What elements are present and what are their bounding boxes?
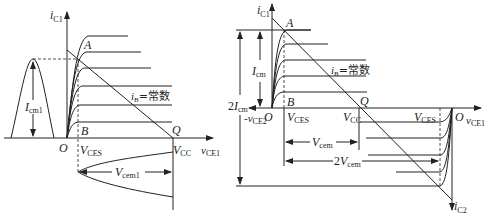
right-point-q: Q [360,94,369,108]
right-origin: O [264,110,273,124]
right-x-axis-label: vCE1 [466,114,485,128]
lower-curve-1 [360,108,452,122]
left-vcem1-label: Vcem1 [115,165,140,180]
left-x-axis-label: vCE1 [201,144,220,158]
left-y-axis-label: iC1 [50,8,63,24]
left-vcc-label: VCC [173,143,191,158]
right-ib-constant-label: iB=常数 [331,64,370,78]
right-icm-label: Icm [251,64,267,79]
right-vces2-label: VCES [414,110,436,125]
right-vces-label: VCES [287,110,309,125]
left-point-b: B [81,124,89,138]
left-icm1-label: Icm1 [24,100,43,115]
right-y-axis-label: iC1 [257,3,270,19]
right-2vcem-label: 2Vcem [334,154,361,169]
right-2icm-label: 2Icm [228,99,249,114]
right-load-line [272,18,452,200]
right-vcem-label: Vcem [312,135,333,150]
left-point-a: A [83,38,92,52]
left-origin: O [59,141,68,155]
left-characteristic-curves [67,36,172,138]
right-point-b: B [287,95,295,109]
transistor-output-characteristics-diagram: iC1 vCE1 A B Q O VCES VCC iB=常数 Icm1 Vce… [0,0,492,218]
right-diagram: iC1 vCE1 -vCE2 iC2 A B Q O O VCES VCES V… [228,3,485,215]
left-diagram: iC1 vCE1 A B Q O VCES VCC iB=常数 Icm1 Vce… [4,8,220,210]
left-point-q: Q [172,123,181,137]
lower-curve-2 [366,108,452,138]
left-ib-constant-label: iB=常数 [131,90,170,104]
right-point-a: A [285,16,294,30]
right-origin-2: O [455,110,464,124]
lower-curve-3 [368,108,452,155]
right-ic2-axis-label: iC2 [454,199,467,215]
right-vcc-label: VCC [343,110,361,125]
left-vces-label: VCES [80,143,102,158]
